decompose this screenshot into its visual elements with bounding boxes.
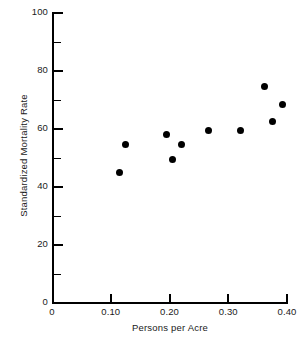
y-tick-major: [54, 186, 63, 188]
data-point: [205, 127, 212, 134]
plot-area: 020406080100 00.100.200.300.40 Persons p…: [0, 0, 308, 344]
data-point: [269, 118, 276, 125]
data-point: [116, 169, 123, 176]
data-point: [163, 131, 170, 138]
data-point: [169, 156, 176, 163]
x-tick-label: 0.20: [150, 306, 190, 317]
y-tick-minor: [54, 158, 61, 159]
data-point: [279, 101, 286, 108]
y-tick-minor: [54, 274, 61, 275]
y-tick-major: [54, 70, 63, 72]
y-tick-major: [54, 12, 63, 14]
y-tick-major: [54, 128, 63, 130]
data-point: [261, 83, 268, 90]
y-tick-minor: [54, 100, 61, 101]
data-point: [122, 141, 129, 148]
data-point: [178, 141, 185, 148]
x-tick-major: [227, 294, 229, 303]
x-tick-major: [110, 294, 112, 303]
y-tick-minor: [54, 216, 61, 217]
y-axis-title: Standardized Mortality Rate: [18, 56, 29, 256]
x-axis-title: Persons per Acre: [52, 322, 288, 333]
scatter-plot-figure: 020406080100 00.100.200.300.40 Persons p…: [0, 0, 308, 344]
y-tick-major: [54, 244, 63, 246]
data-point: [237, 127, 244, 134]
x-tick-major: [169, 294, 171, 303]
x-tick-major: [286, 294, 288, 303]
y-tick-minor: [54, 42, 61, 43]
x-tick-label: 0: [32, 306, 72, 317]
x-tick-label: 0.10: [91, 306, 131, 317]
x-tick-label: 0.40: [267, 306, 307, 317]
x-tick-label: 0.30: [208, 306, 248, 317]
y-tick-label-text: 100: [0, 6, 48, 17]
